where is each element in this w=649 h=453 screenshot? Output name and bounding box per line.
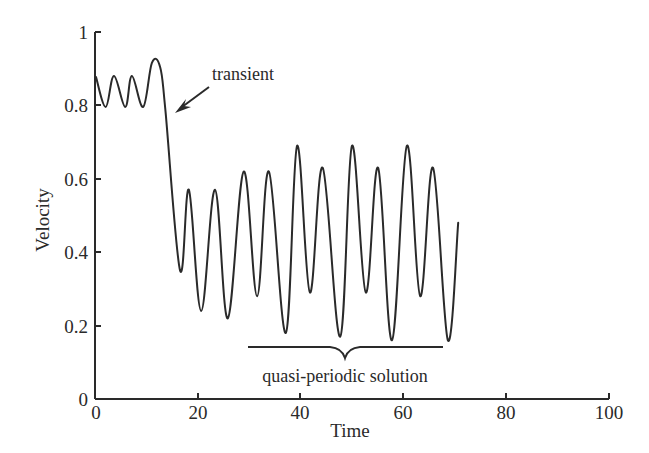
x-tick-label: 80 [497,402,516,423]
quasi-periodic-brace [248,347,443,358]
axes [95,32,609,399]
quasi-periodic-label: quasi-periodic solution [262,366,427,386]
y-tick-label: 0.6 [64,169,88,190]
y-tick-label: 0 [79,389,89,410]
y-tick-labels: 1 0.8 0.6 0.4 0.2 0 [64,22,88,410]
x-axis-label: Time [330,420,369,441]
y-tick-label: 1 [79,22,89,43]
y-tick-label: 0.4 [64,242,88,263]
x-tick-label: 60 [394,402,413,423]
x-tick-label: 0 [91,402,101,423]
x-tick-label: 100 [595,402,624,423]
transient-label: transient [212,64,274,84]
transient-arrow [175,87,209,113]
velocity-line [96,59,458,341]
velocity-chart: 1 0.8 0.6 0.4 0.2 0 0 20 40 60 80 100 Ti… [0,0,649,453]
y-axis-label: Velocity [32,188,53,252]
y-tick-label: 0.8 [64,95,88,116]
x-tick-label: 40 [291,402,310,423]
x-tick-label: 20 [189,402,208,423]
y-tick-label: 0.2 [64,316,88,337]
